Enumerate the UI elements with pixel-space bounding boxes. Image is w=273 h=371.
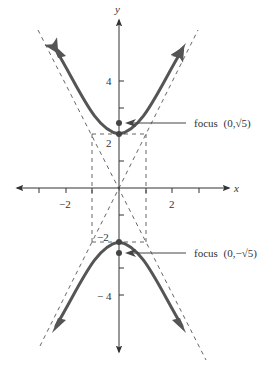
y-tick-label-neg4: − 4	[97, 290, 112, 302]
hyperbola-diagram: x y −2 2 4 2 −2 − 4 focus (0,√5) focus (…	[0, 0, 273, 371]
y-tick-label-2: 2	[106, 137, 112, 149]
y-axis-label: y	[114, 3, 120, 15]
focus-upper-point	[116, 120, 122, 126]
arrowhead-lower-right	[172, 318, 186, 333]
focus-lower-point	[116, 250, 122, 256]
arrowhead-upper-left	[52, 43, 66, 58]
focus-lower-label: focus (0,−√5)	[194, 247, 257, 260]
arrowhead-upper-right	[172, 43, 186, 58]
y-tick-label-neg2: −2	[97, 231, 109, 243]
vertex-lower	[116, 239, 122, 245]
arrowhead-lower-left	[52, 318, 66, 333]
x-tick-label-neg2: −2	[59, 198, 71, 210]
x-tick-label-2: 2	[169, 198, 175, 210]
y-tick-label-4: 4	[106, 75, 112, 87]
vertex-upper	[116, 131, 122, 137]
x-axis-label: x	[233, 182, 239, 194]
focus-upper-label: focus (0,√5)	[194, 117, 251, 130]
